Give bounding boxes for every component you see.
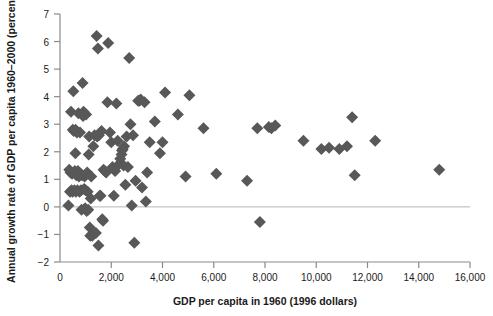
x-axis-tick-label: 4,000 — [150, 272, 175, 283]
data-point-marker — [251, 122, 263, 134]
y-axis-tick-label: 2 — [43, 147, 49, 158]
data-point-marker — [123, 52, 135, 64]
data-point-marker — [102, 37, 114, 49]
x-axis-tick-label: 10,000 — [301, 272, 332, 283]
data-point-marker — [159, 87, 171, 99]
data-point-marker — [144, 136, 156, 148]
scatter-plot-figure: −2−10123456702,0004,0006,0008,00010,0001… — [0, 0, 493, 316]
data-point-marker — [92, 239, 104, 251]
data-point-marker — [62, 200, 74, 212]
data-point-marker — [97, 215, 109, 227]
chart-canvas: −2−10123456702,0004,0006,0008,00010,0001… — [0, 0, 493, 316]
y-axis-tick-label: 0 — [43, 202, 49, 213]
data-point-marker — [241, 175, 253, 187]
data-point-marker — [154, 147, 166, 159]
x-axis-tick-label: 12,000 — [352, 272, 383, 283]
data-point-marker — [369, 135, 381, 147]
data-point-marker — [94, 190, 106, 202]
data-point-marker — [433, 164, 445, 176]
data-point-marker — [254, 216, 266, 228]
y-axis-tick-label: −2 — [38, 257, 50, 268]
data-point-marker — [198, 122, 210, 134]
data-point-marker — [346, 111, 358, 123]
data-point-marker — [149, 115, 161, 127]
x-axis-tick-label: 8,000 — [252, 272, 277, 283]
data-point-marker — [180, 171, 192, 183]
data-point-marker — [210, 168, 222, 180]
data-point-marker — [104, 126, 116, 138]
data-point-marker — [92, 42, 104, 54]
data-point-marker — [67, 85, 79, 97]
data-point-marker — [140, 195, 152, 207]
x-axis-tick-label: 14,000 — [403, 272, 434, 283]
data-point-marker — [126, 200, 138, 212]
y-axis-tick-label: 1 — [43, 174, 49, 185]
data-point-marker — [141, 166, 153, 178]
data-point-marker — [110, 98, 122, 110]
x-axis-tick-label: 2,000 — [99, 272, 124, 283]
x-axis-tick-label: 6,000 — [201, 272, 226, 283]
data-point-marker — [119, 179, 131, 191]
y-axis-title: Annual growth rate of GDP per capita 196… — [5, 0, 17, 283]
x-axis-title: GDP per capita in 1960 (1996 dollars) — [173, 295, 357, 307]
data-point-marker — [183, 89, 195, 101]
data-point-marker — [91, 30, 103, 42]
y-axis-tick-label: 6 — [43, 37, 49, 48]
data-point-marker — [77, 77, 89, 89]
x-axis-tick-label: 16,000 — [455, 272, 486, 283]
data-point-marker — [172, 109, 184, 121]
y-axis-tick-label: −1 — [38, 229, 50, 240]
y-axis-tick-label: 7 — [43, 9, 49, 20]
data-point-marker — [124, 118, 136, 130]
data-point-marker — [128, 237, 140, 249]
x-axis-tick-label: 0 — [57, 272, 63, 283]
data-point-marker — [297, 135, 309, 147]
data-point-marker — [108, 190, 120, 202]
y-axis-tick-label: 3 — [43, 119, 49, 130]
data-point-group — [62, 30, 445, 251]
data-point-marker — [157, 136, 169, 148]
y-axis-tick-label: 5 — [43, 64, 49, 75]
data-point-marker — [101, 96, 113, 108]
y-axis-tick-label: 4 — [43, 92, 49, 103]
data-point-marker — [69, 147, 81, 159]
data-point-marker — [349, 169, 361, 181]
data-point-marker — [323, 142, 335, 154]
